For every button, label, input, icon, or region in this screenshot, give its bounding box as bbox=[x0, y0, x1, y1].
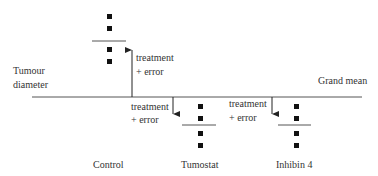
data-point bbox=[107, 14, 112, 19]
annotation-line1: treatment bbox=[136, 52, 174, 63]
annotation-line2: + error bbox=[131, 114, 159, 125]
group-control: treatment + error Control bbox=[92, 14, 174, 170]
data-point bbox=[198, 104, 203, 109]
grand-mean-label: Grand mean bbox=[318, 75, 367, 86]
data-point bbox=[107, 59, 112, 64]
data-point bbox=[198, 143, 203, 148]
y-axis-label-line2: diameter bbox=[13, 79, 49, 90]
annotation-line1: treatment bbox=[229, 98, 267, 109]
anova-diagram: Tumour diameter Grand mean treatment + e… bbox=[0, 0, 378, 176]
data-point bbox=[294, 104, 299, 109]
annotation-line1: treatment bbox=[131, 101, 169, 112]
data-point bbox=[107, 26, 112, 31]
data-point bbox=[294, 143, 299, 148]
data-point bbox=[198, 116, 203, 121]
data-point bbox=[198, 131, 203, 136]
group-label: Control bbox=[93, 159, 124, 170]
y-axis-label-line1: Tumour bbox=[13, 65, 46, 76]
annotation-line2: + error bbox=[136, 66, 164, 77]
group-label: Inhibin 4 bbox=[276, 159, 312, 170]
annotation-line2: + error bbox=[229, 112, 257, 123]
data-point bbox=[107, 47, 112, 52]
group-inhibin-4: treatment + error Inhibin 4 bbox=[229, 97, 312, 170]
data-point bbox=[294, 131, 299, 136]
data-point bbox=[294, 116, 299, 121]
group-label: Tumostat bbox=[181, 159, 219, 170]
group-tumostat: treatment + error Tumostat bbox=[131, 97, 219, 170]
